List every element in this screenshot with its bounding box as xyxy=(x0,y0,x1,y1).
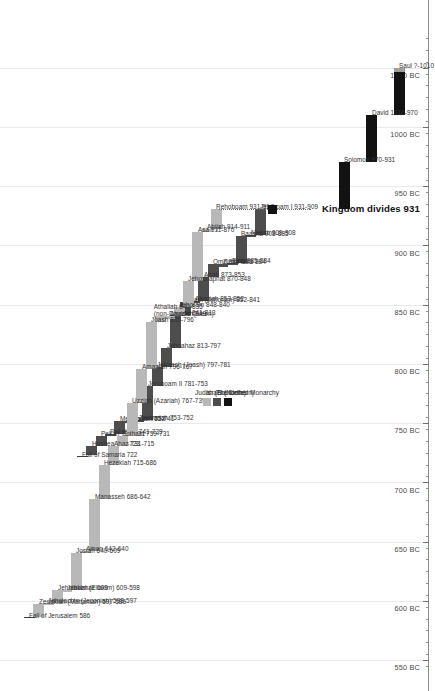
axis-tick-minor xyxy=(426,654,429,655)
axis-tick-major xyxy=(423,245,429,246)
bar-label: Solomon 970-931 xyxy=(345,156,396,163)
bar-label: Jeroboam II 781-753 xyxy=(148,380,208,387)
axis-tick-label: 600 BC xyxy=(394,604,420,613)
axis-tick-minor xyxy=(426,168,429,169)
axis-tick-minor xyxy=(426,571,429,572)
axis-tick-minor xyxy=(426,500,429,501)
axis-tick-minor xyxy=(426,583,429,584)
axis-tick-major xyxy=(423,482,429,483)
axis-tick-minor xyxy=(426,180,429,181)
kingdom-divide-marker xyxy=(268,205,277,214)
bar-label: Asa 911-870 xyxy=(198,226,234,233)
axis-tick-minor xyxy=(426,204,429,205)
axis-tick-minor xyxy=(426,465,429,466)
bar-label: Uzziah (Azariah) 767-739 xyxy=(132,397,206,404)
bar-label: Jehoiakim (Eliakim) 609-598 xyxy=(58,584,140,591)
bar-label: Ahaz 731-715 xyxy=(114,440,154,447)
kingdom-divide-label: Kingdom divides 931 xyxy=(322,203,420,214)
gridline xyxy=(0,482,429,483)
bar-asa xyxy=(192,232,203,281)
axis-tick-major xyxy=(423,601,429,602)
axis-tick-minor xyxy=(426,405,429,406)
axis-tick-minor xyxy=(426,488,429,489)
axis-tick-minor xyxy=(426,85,429,86)
event-label: Fall of Jerusalem 586 xyxy=(30,612,91,619)
event-label: Fall of Samaria 722 xyxy=(82,451,137,458)
gridline xyxy=(0,660,429,661)
axis-tick-major xyxy=(423,542,429,543)
axis-tick-minor xyxy=(426,512,429,513)
axis-tick-label: 950 BC xyxy=(394,189,420,198)
axis-tick-minor xyxy=(426,346,429,347)
axis-tick-minor xyxy=(426,536,429,537)
axis-tick-major xyxy=(423,305,429,306)
bar-label: Manasseh 686-642 xyxy=(95,493,151,500)
axis-tick-minor xyxy=(426,239,429,240)
bar-label: Josiah 640-609 xyxy=(76,547,120,554)
bar-label: Omri 884-873 xyxy=(213,258,253,265)
axis-tick-major xyxy=(423,660,429,661)
bar-label: Saul ?-1010 xyxy=(400,62,435,69)
axis-tick-label: 800 BC xyxy=(394,367,420,376)
bar-label: Zedekiah (Mattaniah) 597-586 xyxy=(39,598,126,605)
axis-tick-minor xyxy=(426,156,429,157)
bar-label: Baasha 908-885 xyxy=(241,230,289,237)
axis-tick-major xyxy=(423,364,429,365)
bar-joash xyxy=(146,322,157,368)
axis-tick-minor xyxy=(426,121,429,122)
axis-tick-label: 1000 BC xyxy=(390,130,420,139)
axis-tick-minor xyxy=(426,145,429,146)
axis-tick-minor xyxy=(426,97,429,98)
axis-tick-major xyxy=(423,186,429,187)
axis-tick-minor xyxy=(426,50,429,51)
axis-tick-minor xyxy=(426,382,429,383)
bar-label: David 1010-970 xyxy=(372,109,418,116)
bar-label: Jehoshaphat 870-848 xyxy=(188,275,251,282)
kingdom-divide-line xyxy=(219,209,311,210)
axis-tick-minor xyxy=(426,74,429,75)
axis-tick-minor xyxy=(426,476,429,477)
axis-tick-minor xyxy=(426,109,429,110)
axis-tick-minor xyxy=(426,275,429,276)
legend-swatch-judah xyxy=(203,398,211,406)
axis-tick-label: 900 BC xyxy=(394,249,420,258)
gridline xyxy=(0,186,429,187)
legend-label-judah: Judah (Southern) xyxy=(196,389,247,396)
axis-tick-minor xyxy=(426,228,429,229)
axis-tick-minor xyxy=(426,453,429,454)
axis-tick-minor xyxy=(426,559,429,560)
axis-tick-label: 700 BC xyxy=(394,486,420,495)
axis-tick-minor xyxy=(426,38,429,39)
axis-tick-minor xyxy=(426,133,429,134)
axis-tick-minor xyxy=(426,595,429,596)
gridline xyxy=(0,127,429,128)
bar-label: Joash 835-796 xyxy=(151,316,194,323)
bar-manasseh xyxy=(89,499,100,551)
axis-tick-minor xyxy=(426,619,429,620)
axis-tick-minor xyxy=(426,311,429,312)
axis-tick-minor xyxy=(426,287,429,288)
axis-tick-minor xyxy=(426,417,429,418)
axis-tick-minor xyxy=(426,216,429,217)
legend-swatch-israel xyxy=(214,398,222,406)
axis-tick-minor xyxy=(426,263,429,264)
bar-label: Amaziah 796-767 xyxy=(142,363,193,370)
axis-tick-minor xyxy=(426,441,429,442)
axis-tick-minor xyxy=(426,666,429,667)
axis-tick-minor xyxy=(426,192,429,193)
bar-saul xyxy=(394,68,405,115)
axis-tick-label: 850 BC xyxy=(394,308,420,317)
legend-swatch-united xyxy=(224,398,232,406)
axis-tick-label: 750 BC xyxy=(394,426,420,435)
axis-tick-label: 650 BC xyxy=(394,545,420,554)
axis-tick-minor xyxy=(426,607,429,608)
axis-tick-minor xyxy=(426,358,429,359)
gridline xyxy=(0,542,429,543)
axis-tick-minor xyxy=(426,393,429,394)
bar-label: Jehoahaz 813-797 xyxy=(167,342,221,349)
axis-tick-major xyxy=(423,127,429,128)
axis-tick-minor xyxy=(426,334,429,335)
axis-tick-minor xyxy=(426,630,429,631)
gridline xyxy=(0,423,429,424)
